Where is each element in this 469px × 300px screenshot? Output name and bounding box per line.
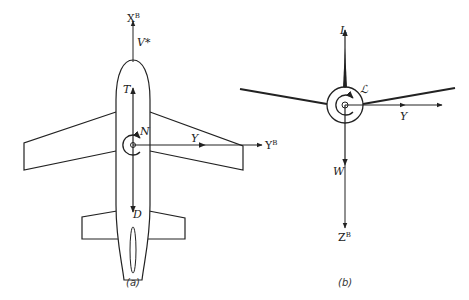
right-wing-front [363, 88, 455, 104]
xb-axis-label: XB [127, 12, 140, 25]
right-tailplane [145, 211, 185, 239]
diagram-svg: XB V* T N Y YB D (a) L ℒ Y W [0, 0, 469, 300]
yb-axis-label: YB [264, 139, 277, 152]
side-force-label-a: Y [191, 132, 200, 145]
zb-axis-label: ZB [338, 231, 351, 244]
yaw-moment-label: N [139, 125, 150, 138]
panel-a-caption: (a) [126, 277, 140, 288]
panel-b-caption: (b) [338, 277, 352, 288]
panel-b: L ℒ Y W ZB (b) [240, 24, 455, 288]
roll-moment-label: ℒ [360, 83, 369, 96]
aircraft-forces-diagram: XB V* T N Y YB D (a) L ℒ Y W [0, 0, 469, 300]
side-force-label-b: Y [400, 110, 409, 123]
panel-a: XB V* T N Y YB D (a) [24, 12, 277, 288]
left-wing [24, 112, 116, 170]
left-wing-front [240, 89, 327, 104]
weight-label: W [333, 165, 346, 178]
lift-label: L [339, 24, 347, 37]
drag-label: D [132, 208, 142, 221]
velocity-label: V* [137, 36, 151, 49]
